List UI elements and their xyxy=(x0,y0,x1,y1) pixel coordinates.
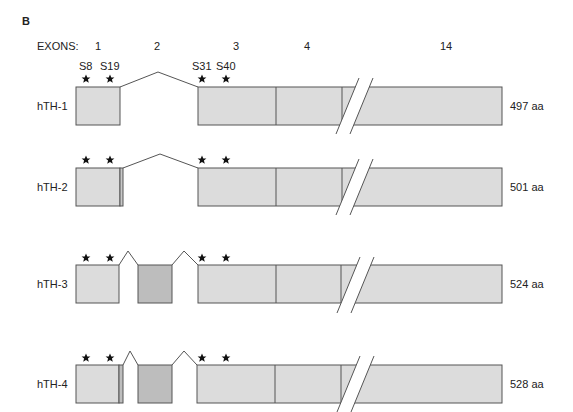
exon-1 xyxy=(76,365,119,403)
exon-1-extra xyxy=(119,365,123,403)
exon-1 xyxy=(76,265,119,303)
splice-line xyxy=(172,251,198,265)
splice-line xyxy=(172,351,197,365)
exon-structure-diagram xyxy=(0,0,573,412)
splice-line xyxy=(119,251,138,265)
exon-1-extra xyxy=(120,168,123,206)
isoform-row-hth3 xyxy=(76,251,502,313)
splice-line xyxy=(123,351,138,365)
isoform-row-hth1 xyxy=(76,72,502,134)
exon-2 xyxy=(138,265,172,303)
splice-line xyxy=(120,72,198,87)
splice-line xyxy=(123,154,198,168)
isoform-row-hth4 xyxy=(76,351,502,412)
exon-2 xyxy=(138,365,172,403)
isoform-row-hth2 xyxy=(76,154,502,215)
exon-1 xyxy=(76,87,120,125)
exon-1 xyxy=(76,168,120,206)
